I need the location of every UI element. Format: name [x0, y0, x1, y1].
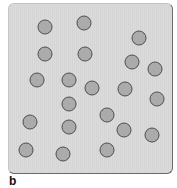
- panel-label: b: [9, 175, 16, 187]
- particle-circle: [77, 16, 92, 31]
- particle-circle: [85, 81, 100, 96]
- particle-circle: [150, 92, 165, 107]
- particle-circle: [148, 62, 163, 77]
- particle-circle: [38, 47, 53, 62]
- particle-circle: [56, 147, 71, 162]
- particle-circle: [132, 31, 147, 46]
- particle-circle: [100, 108, 115, 123]
- particle-circle: [62, 120, 77, 135]
- particle-circle: [38, 20, 53, 35]
- particle-circle: [145, 128, 160, 143]
- particle-circle: [30, 73, 45, 88]
- particle-circle: [78, 47, 93, 62]
- particle-circle: [62, 73, 77, 88]
- particle-circle: [125, 55, 140, 70]
- particle-circle: [62, 97, 77, 112]
- particle-circle: [100, 143, 115, 158]
- particle-circle: [23, 115, 38, 130]
- particle-circle: [117, 123, 132, 138]
- particle-circle: [118, 82, 133, 97]
- particle-circle: [19, 143, 34, 158]
